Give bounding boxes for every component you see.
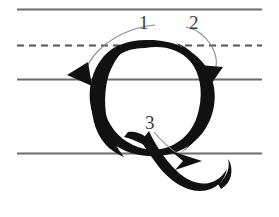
stroke-number-2: 2 xyxy=(189,13,199,32)
stroke-number-1: 1 xyxy=(139,13,149,32)
stroke-1-arrowhead-icon xyxy=(67,62,92,86)
handwriting-stroke-diagram: 1 2 3 xyxy=(0,0,279,217)
letter-q-glyph xyxy=(90,40,232,191)
stroke-number-3: 3 xyxy=(145,113,155,132)
